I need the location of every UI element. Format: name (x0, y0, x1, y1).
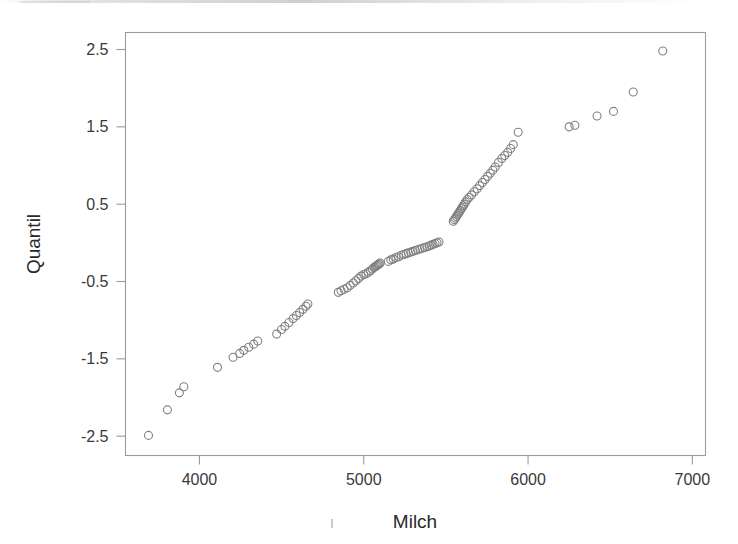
data-point (514, 128, 522, 136)
x-axis-tick-labels: 4000500060007000 (182, 471, 711, 488)
data-point (214, 363, 222, 371)
x-tick-label: 4000 (182, 471, 218, 488)
data-point (180, 383, 188, 391)
data-point (659, 47, 667, 55)
data-point (571, 121, 579, 129)
data-point (593, 112, 601, 120)
data-point (273, 330, 281, 338)
y-axis-ticks (117, 50, 126, 437)
x-tick-label: 5000 (346, 471, 382, 488)
data-point (565, 123, 573, 131)
x-tick-label: 7000 (675, 471, 711, 488)
data-point (609, 107, 617, 115)
y-tick-label: 1.5 (86, 118, 108, 135)
y-tick-label: 2.5 (86, 41, 108, 58)
data-point (163, 406, 171, 414)
y-tick-label: 0.5 (86, 196, 108, 213)
plot-frame (126, 33, 706, 456)
y-axis-title: Quantil (23, 214, 44, 274)
qq-plot-chart: 4000500060007000 2.51.50.5-0.5-1.5-2.5 M… (0, 0, 738, 544)
y-tick-label: -0.5 (81, 273, 109, 290)
figure-page: 4000500060007000 2.51.50.5-0.5-1.5-2.5 M… (0, 0, 738, 544)
x-tick-label: 6000 (510, 471, 546, 488)
y-axis-tick-labels: 2.51.50.5-0.5-1.5-2.5 (81, 41, 109, 445)
y-tick-label: -1.5 (81, 350, 109, 367)
data-point (304, 300, 312, 308)
x-axis-ticks (199, 456, 692, 465)
y-tick-label: -2.5 (81, 428, 109, 445)
data-point (145, 431, 153, 439)
data-point (629, 88, 637, 96)
x-axis-title: Milch (393, 511, 437, 532)
scatter-points (145, 47, 667, 439)
